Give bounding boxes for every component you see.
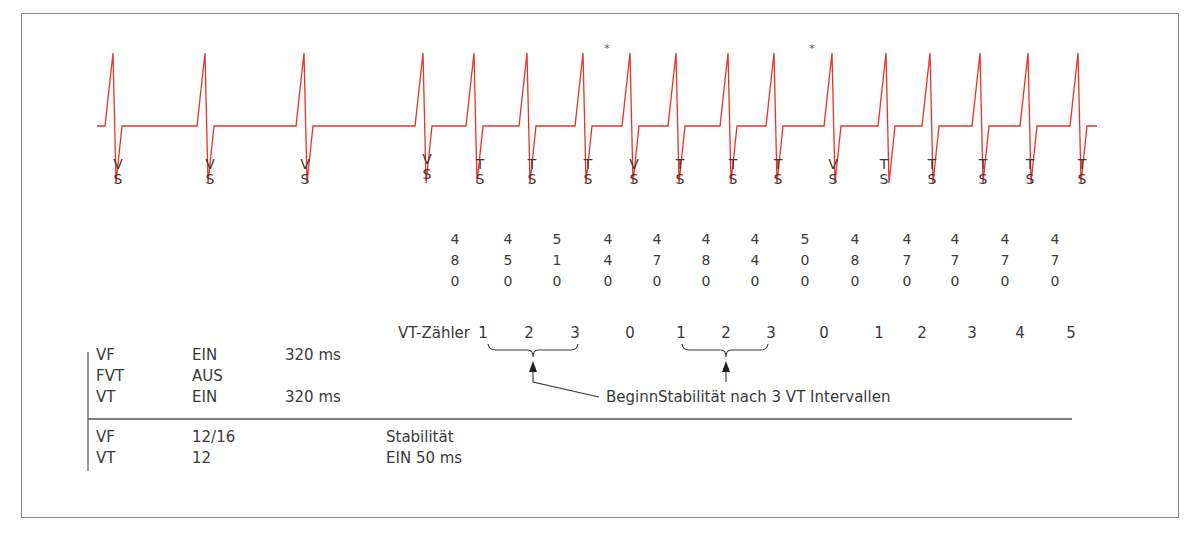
arrow-line-beginn [533,371,599,397]
interval-value: 440 [748,229,762,292]
zone-vt-state: EIN [192,388,217,406]
beat-marker-label: VS [300,157,310,187]
beat-marker-label: TS [476,157,485,187]
interval-value: 450 [501,229,515,292]
interval-value: 470 [948,229,962,292]
beat-marker-label: TS [676,157,685,187]
vt-counter-value: 2 [721,324,731,342]
detect-vt: VT [96,449,115,467]
interval-value: 500 [798,229,812,292]
beat-marker-label: VS [422,152,432,182]
vt-counter-value: 2 [524,324,534,342]
vt-counter-value: 3 [766,324,776,342]
beat-marker-label: TS [1026,157,1035,187]
brace-second-three [682,344,768,357]
vt-counter-value: 5 [1066,324,1076,342]
zone-vt-interval: 320 ms [285,388,341,406]
vt-counter-value: 0 [819,324,829,342]
interval-value: 470 [1048,229,1062,292]
vt-counter-value: 2 [917,324,927,342]
zone-vf-interval: 320 ms [285,346,341,364]
beginn-label: Beginn [606,388,658,406]
vt-counter-value: 1 [874,324,884,342]
beat-marker-label: TS [880,157,889,187]
zone-vt: VT [96,388,115,406]
vt-counter-value: 3 [570,324,580,342]
arrowhead-beginn [529,361,537,372]
vt-counter-value: 1 [676,324,686,342]
brace-first-three [488,344,578,357]
beat-marker-label: VS [629,157,639,187]
interval-value: 470 [900,229,914,292]
stability-note: Stabilität nach 3 VT Intervallen [658,388,890,406]
detect-vf-note: Stabilität [386,428,454,446]
zone-vf: VF [96,346,115,364]
ecg-diagram [0,0,1197,533]
beat-marker-label: TS [1078,157,1087,187]
beat-marker-label: TS [729,157,738,187]
beat-marker-label: TS [774,157,783,187]
beat-marker-label: TS [928,157,937,187]
detect-vt-count: 12 [192,449,211,467]
detect-vf: VF [96,428,115,446]
asterisk-mark: * [809,42,815,55]
interval-value: 480 [848,229,862,292]
interval-value: 470 [998,229,1012,292]
vt-counter-value: 3 [967,324,977,342]
beat-marker-label: VS [828,157,838,187]
interval-value: 510 [550,229,564,292]
beat-marker-label: TS [528,157,537,187]
interval-value: 480 [699,229,713,292]
beat-marker-label: VS [205,157,215,187]
interval-value: 470 [650,229,664,292]
detect-vt-note: EIN 50 ms [386,449,462,467]
interval-value: 440 [601,229,615,292]
beat-marker-label: VS [113,157,123,187]
zone-fvt: FVT [96,367,124,385]
vt-counter-value: 4 [1015,324,1025,342]
vt-counter-value: 1 [478,324,488,342]
arrowhead-stability [722,361,730,372]
zone-fvt-state: AUS [192,367,223,385]
detect-vf-count: 12/16 [192,428,235,446]
vt-counter-value: 0 [625,324,635,342]
vt-counter-label: VT-Zähler [398,324,470,342]
interval-value: 480 [448,229,462,292]
zone-vf-state: EIN [192,346,217,364]
beat-marker-label: TS [584,157,593,187]
asterisk-mark: * [604,42,610,55]
ecg-trace [97,53,1097,183]
beat-marker-label: TS [979,157,988,187]
